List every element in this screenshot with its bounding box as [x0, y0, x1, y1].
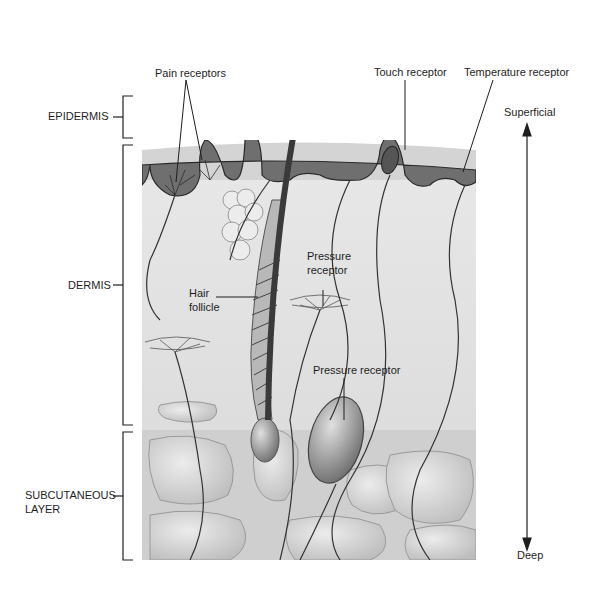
orientation-arrow — [523, 124, 531, 550]
label-epidermis: EPIDERMIS — [48, 110, 109, 123]
hair-bulb — [251, 418, 279, 462]
label-hair-follicle-2: follicle — [189, 301, 220, 314]
label-pain-receptors: Pain receptors — [155, 67, 226, 80]
label-dermis: DERMIS — [68, 279, 111, 292]
label-hair-follicle: Hair — [189, 287, 209, 300]
label-subcutaneous: SUBCUTANEOUS — [25, 489, 116, 502]
label-pressure-receptor-lower: Pressure receptor — [313, 364, 400, 377]
layer-brackets — [113, 96, 133, 560]
label-deep: Deep — [517, 549, 543, 562]
label-subcutaneous-layer: LAYER — [25, 503, 60, 516]
label-pressure-receptor-upper: Pressure — [307, 250, 351, 263]
label-temperature-receptor: Temperature receptor — [464, 66, 569, 79]
skin-illustration — [0, 0, 592, 600]
label-touch-receptor: Touch receptor — [374, 66, 447, 79]
label-superficial: Superficial — [504, 106, 555, 119]
label-pressure-receptor-upper-2: receptor — [307, 264, 347, 277]
